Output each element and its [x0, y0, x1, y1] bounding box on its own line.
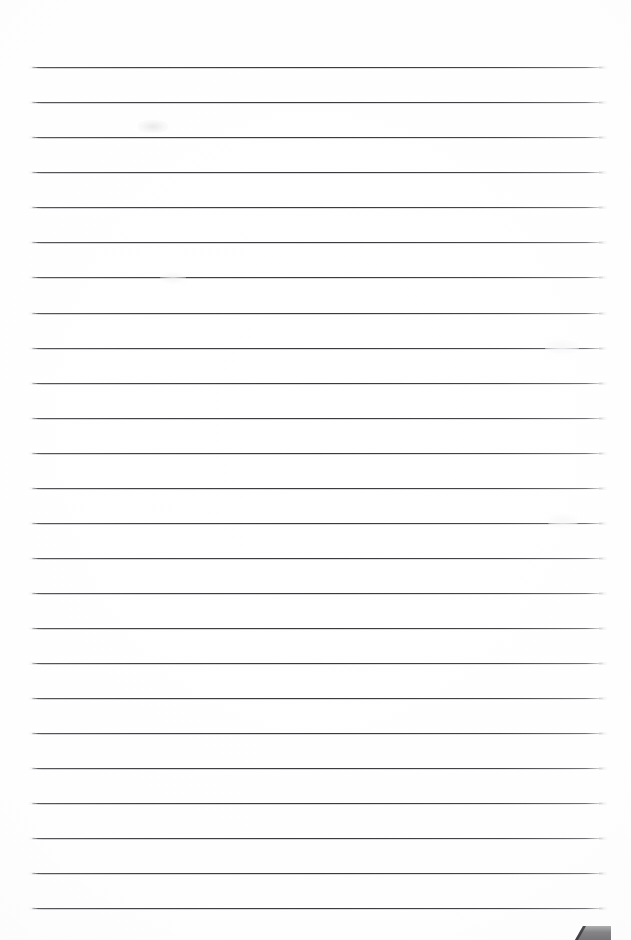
ruled-line-core: [32, 663, 603, 664]
ruled-line-halo: [32, 629, 603, 630]
ruled-line-cap-right: [599, 767, 608, 770]
ruled-line: [32, 206, 603, 209]
ruled-line-core: [32, 453, 603, 454]
ruled-line-cap-right: [599, 417, 608, 420]
ruled-line-core: [32, 523, 603, 524]
ruled-line-core: [32, 242, 603, 243]
ruled-line-halo: [32, 138, 603, 139]
ruled-line-core: [32, 383, 603, 384]
ruled-line-cap-right: [599, 382, 608, 385]
ruled-line-core: [32, 628, 603, 629]
ruled-line: [32, 697, 603, 700]
ruled-line: [32, 66, 603, 69]
ruled-line-cap-right: [599, 487, 608, 490]
ruled-line-cap-left: [28, 312, 35, 315]
ruled-line: [32, 276, 603, 279]
ruled-line: [32, 767, 603, 770]
ruled-line-cap-right: [599, 206, 608, 209]
ruled-line-cap-right: [599, 452, 608, 455]
ruled-line-cap-left: [28, 171, 35, 174]
ruled-line: [32, 522, 603, 525]
ruled-line-halo: [32, 559, 603, 560]
ruled-line-halo: [32, 489, 603, 490]
ruled-line-cap-right: [599, 241, 608, 244]
ruled-line-cap-left: [28, 732, 35, 735]
ruled-line-cap-left: [28, 101, 35, 104]
ruled-line-cap-left: [28, 557, 35, 560]
ruled-line: [32, 557, 603, 560]
ruled-line-halo: [32, 769, 603, 770]
ruled-line-halo: [32, 278, 603, 279]
ruled-line: [32, 907, 603, 910]
ruled-line-cap-left: [28, 522, 35, 525]
ruled-line-cap-right: [599, 837, 608, 840]
ruled-line-halo: [32, 839, 603, 840]
ruled-line-core: [32, 348, 603, 349]
ruled-line-core: [32, 803, 603, 804]
ruled-line-cap-right: [599, 627, 608, 630]
ruled-line-cap-left: [28, 627, 35, 630]
ruled-line: [32, 171, 603, 174]
ruled-line-cap-right: [599, 557, 608, 560]
ruled-line-cap-left: [28, 592, 35, 595]
ruled-line: [32, 802, 603, 805]
ruled-line-core: [32, 488, 603, 489]
ruled-line-cap-right: [599, 66, 608, 69]
ruled-line-cap-right: [599, 697, 608, 700]
ruled-line-core: [32, 908, 603, 909]
ruled-line: [32, 592, 603, 595]
ruled-line-cap-right: [599, 136, 608, 139]
ruled-line-halo: [32, 243, 603, 244]
scanned-page: [0, 0, 631, 940]
ruled-line-cap-left: [28, 452, 35, 455]
ruled-line: [32, 452, 603, 455]
ruled-line-cap-right: [599, 347, 608, 350]
ruled-line: [32, 241, 603, 244]
ruled-line-cap-left: [28, 802, 35, 805]
ruled-line-core: [32, 313, 603, 314]
ruled-line-cap-right: [599, 276, 608, 279]
ruled-line-halo: [32, 664, 603, 665]
ruled-line-cap-right: [599, 802, 608, 805]
ruled-line-halo: [32, 699, 603, 700]
ruled-line-cap-left: [28, 837, 35, 840]
ruled-line-core: [32, 698, 603, 699]
ruled-line-core: [32, 733, 603, 734]
ruled-line-halo: [32, 349, 603, 350]
ruled-line-halo: [32, 173, 603, 174]
ruled-line: [32, 417, 603, 420]
ruled-line-cap-right: [599, 101, 608, 104]
ruled-line-halo: [32, 874, 603, 875]
ruled-line-core: [32, 137, 603, 138]
ruled-line: [32, 101, 603, 104]
ruled-line-halo: [32, 909, 603, 910]
ruled-line-cap-right: [599, 522, 608, 525]
ruled-line-cap-right: [599, 732, 608, 735]
ruled-line-cap-left: [28, 136, 35, 139]
ruled-line: [32, 872, 603, 875]
ruled-line-core: [32, 558, 603, 559]
ruled-line-cap-right: [599, 907, 608, 910]
ruled-line-halo: [32, 314, 603, 315]
ruled-line: [32, 487, 603, 490]
ruled-line-halo: [32, 68, 603, 69]
ruled-line-halo: [32, 384, 603, 385]
ruled-line: [32, 837, 603, 840]
ruled-line-cap-left: [28, 767, 35, 770]
ruled-line-core: [32, 838, 603, 839]
ruled-line-halo: [32, 594, 603, 595]
ruled-lines-layer: [0, 0, 631, 940]
ruled-line-cap-right: [599, 872, 608, 875]
ruled-line-core: [32, 207, 603, 208]
ruled-line-halo: [32, 524, 603, 525]
ruled-line: [32, 382, 603, 385]
ruled-line-core: [32, 277, 603, 278]
ruled-line-cap-left: [28, 382, 35, 385]
ruled-line-core: [32, 593, 603, 594]
ruled-line: [32, 627, 603, 630]
ruled-line-core: [32, 418, 603, 419]
ruled-line-cap-left: [28, 907, 35, 910]
ruled-line: [32, 136, 603, 139]
ruled-line-cap-right: [599, 592, 608, 595]
ruled-line-cap-left: [28, 697, 35, 700]
